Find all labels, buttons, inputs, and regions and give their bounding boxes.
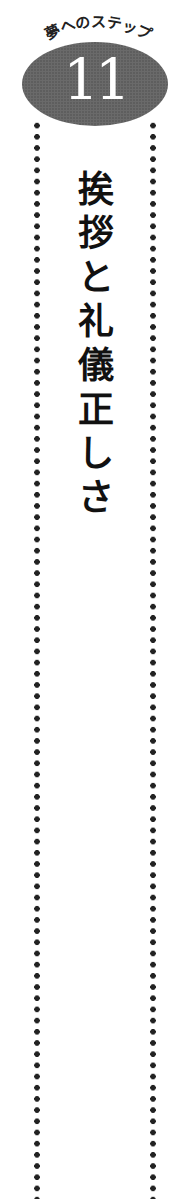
svg-text:夢へのステップ: 夢へのステップ: [43, 13, 156, 45]
title-char: 挨: [74, 168, 118, 212]
step-number: 11: [22, 48, 168, 112]
title-char: 礼: [74, 300, 118, 344]
title-char: さ: [74, 476, 118, 520]
arc-label-text: 夢へのステップ: [43, 13, 156, 45]
right-dotted-border: [150, 120, 156, 1199]
title-char: 儀: [74, 344, 118, 388]
title-char: し: [74, 432, 118, 476]
left-dotted-border: [34, 120, 40, 1199]
title-char: と: [74, 256, 118, 300]
vertical-title: 挨 拶 と 礼 儀 正 し さ: [74, 168, 118, 520]
title-char: 拶: [74, 212, 118, 256]
title-char: 正: [74, 388, 118, 432]
